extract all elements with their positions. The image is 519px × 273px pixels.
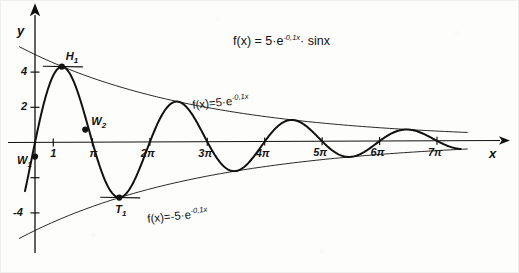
x-axis-label: x [489,147,496,160]
x-axis [8,141,500,143]
point-H1 [59,63,65,69]
lower-envelope-label-exponent: -0,1x [190,205,208,216]
x-tick-label-5π: 5π [313,147,327,158]
title-formula: f(x) = 5·e-0,1x· sinx [233,34,330,48]
point-W2 [82,127,88,133]
y-axis-label: y [17,24,24,37]
x-tick-label-π: π [89,148,97,159]
x-tick-label-7π: 7π [428,147,442,158]
title-formula-main: f(x) = 5·e [233,34,283,48]
point-label-base-T1: T [115,203,122,215]
x-tick-label-6π: 6π [371,147,385,158]
damped-sine-curve [25,67,461,198]
point-label-sub-H1: 1 [74,56,78,65]
title-formula-exponent: -0,1x [283,33,300,42]
tangent-segments [43,66,140,198]
x-tick-label-3π: 3π [198,148,212,159]
x-tick-label-4π: 4π [256,148,270,159]
y-tick-label--4: -4 [13,207,23,218]
y-tick-label-4: 4 [21,66,27,77]
point-label-sub-T1: 1 [122,209,126,218]
marked-points [32,63,122,200]
function-graph-figure: y x f(x) = 5·e-0,1x· sinx f(x)=5·e-0,1x … [0,0,519,273]
upper-envelope-label-exponent: -0,1x [231,92,248,103]
point-label-W2: W2 [91,116,106,130]
lower-envelope-curve [19,149,467,238]
title-formula-tail: · sinx [300,34,330,48]
point-label-base-W2: W [91,115,101,127]
point-label-sub-W1: 1 [27,160,31,169]
point-label-T1: T1 [115,204,126,218]
point-W1 [32,153,38,159]
point-label-H1: H1 [66,51,78,65]
point-label-W1: W1 [17,155,32,169]
point-label-base-W1: W [17,154,27,166]
point-label-sub-W2: 2 [102,121,106,130]
point-label-base-H1: H [66,50,74,62]
x-tick-label-1: 1 [50,148,56,159]
x-tick-label-2π: 2π [141,148,155,159]
y-tick-label-2: 2 [21,101,27,112]
point-T1 [116,194,122,200]
axes-group [8,15,500,253]
